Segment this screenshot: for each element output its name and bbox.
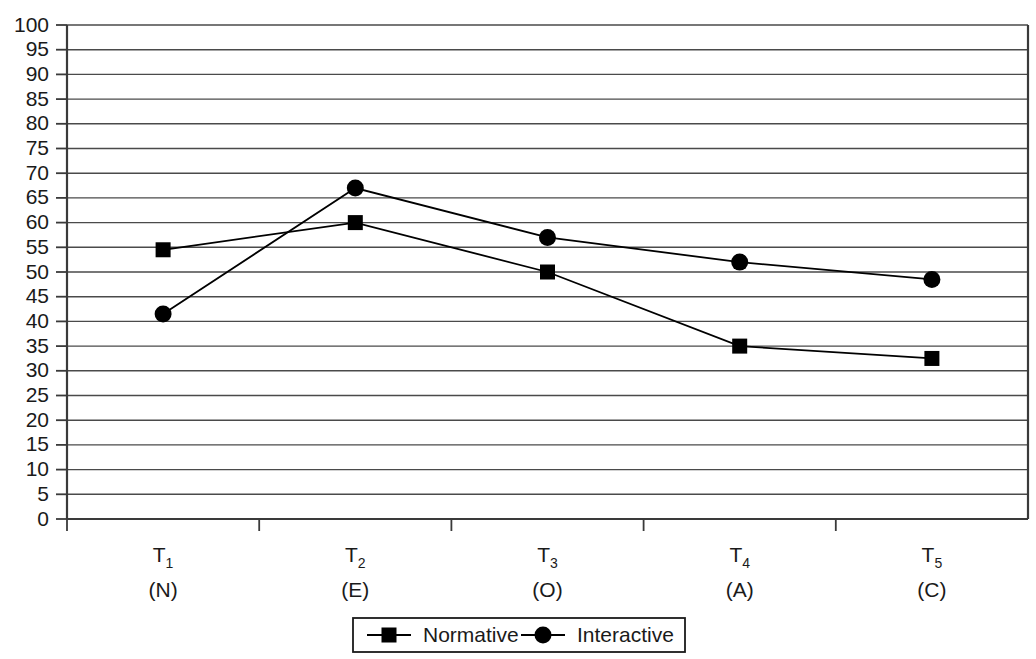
x-axis-sublabel: (C) xyxy=(917,578,946,601)
y-axis-tick-label: 60 xyxy=(26,210,49,233)
data-point-marker-square xyxy=(348,215,363,230)
y-axis-tick-label: 95 xyxy=(26,37,49,60)
x-axis-sublabel: (N) xyxy=(149,578,178,601)
y-axis-ticks-group xyxy=(56,25,67,519)
data-point-marker-square xyxy=(540,265,555,280)
y-axis-tick-label: 5 xyxy=(37,482,49,505)
y-axis-tick-label: 70 xyxy=(26,161,49,184)
chart-legend: NormativeInteractive xyxy=(353,618,685,652)
chart-canvas: 0510152025303540455055606570758085909510… xyxy=(0,0,1036,659)
y-axis-tick-label: 45 xyxy=(26,284,49,307)
data-point-marker-square xyxy=(156,242,171,257)
legend-marker-circle xyxy=(535,627,552,644)
line-chart: 0510152025303540455055606570758085909510… xyxy=(0,0,1036,659)
legend-label: Normative xyxy=(423,623,519,646)
y-axis-tick-label: 75 xyxy=(26,136,49,159)
y-axis-tick-label: 100 xyxy=(14,13,49,36)
y-axis-tick-label: 30 xyxy=(26,358,49,381)
data-point-marker-circle xyxy=(731,254,748,271)
y-axis-tick-label: 35 xyxy=(26,334,49,357)
y-axis-tick-label: 65 xyxy=(26,185,49,208)
y-axis-tick-label: 50 xyxy=(26,260,49,283)
y-axis-tick-label: 0 xyxy=(37,507,49,530)
data-point-marker-circle xyxy=(155,305,172,322)
legend-marker-square xyxy=(382,628,397,643)
y-axis-tick-label: 10 xyxy=(26,457,49,480)
data-point-marker-circle xyxy=(347,180,364,197)
y-axis-tick-label: 55 xyxy=(26,235,49,258)
y-axis-tick-label: 40 xyxy=(26,309,49,332)
y-axis-tick-label: 25 xyxy=(26,383,49,406)
x-axis-sublabel: (A) xyxy=(726,578,754,601)
data-point-marker-square xyxy=(732,339,747,354)
y-axis-tick-label: 80 xyxy=(26,111,49,134)
x-axis-sublabel: (E) xyxy=(341,578,369,601)
y-axis-tick-label: 15 xyxy=(26,432,49,455)
y-axis-tick-label: 20 xyxy=(26,408,49,431)
data-point-marker-circle xyxy=(539,229,556,246)
data-point-marker-square xyxy=(924,351,939,366)
y-axis-tick-label: 90 xyxy=(26,62,49,85)
x-axis-sublabel: (O) xyxy=(532,578,562,601)
data-point-marker-circle xyxy=(923,271,940,288)
y-axis-tick-label: 85 xyxy=(26,87,49,110)
legend-label: Interactive xyxy=(577,623,674,646)
